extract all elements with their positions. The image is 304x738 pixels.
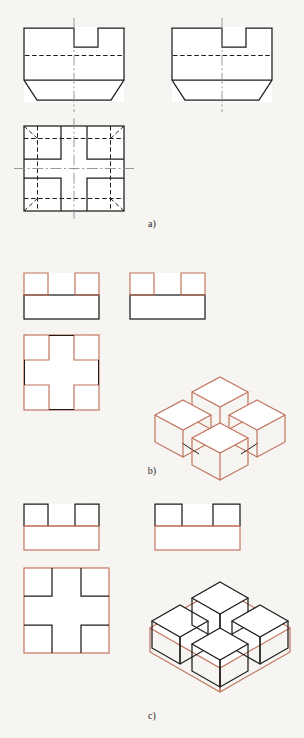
caption-panel-c: c) — [0, 710, 304, 721]
iso-cube-right — [229, 400, 285, 457]
panel-b — [24, 273, 285, 480]
panel-c-top-view — [24, 568, 109, 653]
technical-drawing-canvas: .blk { stroke:#1d1d1d; stroke-width:1.25… — [0, 0, 304, 738]
iso-cube-left — [155, 400, 211, 457]
panel-c-front-view — [24, 504, 99, 550]
panel-c-side-view — [155, 504, 240, 550]
panel-b-side-view — [130, 273, 205, 319]
caption-panel-b: b) — [0, 465, 304, 476]
panel-a — [14, 18, 272, 219]
panel-a-front-view — [24, 18, 124, 112]
figure-page: .blk { stroke:#1d1d1d; stroke-width:1.25… — [0, 0, 304, 738]
panel-a-top-view — [14, 118, 134, 219]
panel-b-top-view — [24, 335, 99, 410]
panel-c — [24, 504, 290, 692]
panel-b-front-view — [24, 273, 99, 319]
panel-c-isometric-view — [150, 582, 290, 692]
caption-panel-a: a) — [0, 218, 304, 229]
panel-a-side-view — [172, 18, 272, 112]
